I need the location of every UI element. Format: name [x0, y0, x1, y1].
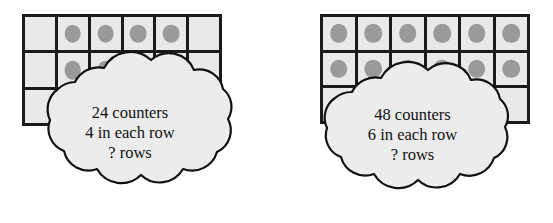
grid-cell	[323, 53, 355, 86]
grid-cell	[156, 53, 186, 86]
grid-cell	[323, 17, 355, 50]
counter-chip	[130, 24, 147, 43]
counter-chip	[64, 61, 81, 80]
grid-cell	[427, 17, 459, 50]
cloud-text-left: 24 counters 4 in each row ? rows	[30, 103, 230, 163]
counter-chip	[97, 61, 114, 80]
counter-chip	[163, 24, 180, 43]
grid-cell	[392, 17, 424, 50]
grid-cell	[124, 53, 154, 86]
counter-chip	[330, 24, 348, 42]
grid-cell	[189, 53, 219, 86]
counter-chip	[64, 24, 81, 43]
cloud-text-right: 48 counters 6 in each row ? rows	[310, 105, 515, 165]
counter-chip	[468, 24, 486, 42]
grid-cell	[358, 53, 390, 86]
counter-chip	[433, 60, 451, 78]
counter-chip	[502, 60, 520, 78]
cloud-line-per-row: 6 in each row	[310, 125, 515, 145]
cloud-line-total: 48 counters	[310, 105, 515, 125]
grid-cell	[358, 17, 390, 50]
counter-chip	[502, 24, 520, 42]
grid-cell	[461, 17, 493, 50]
grid-cell	[156, 17, 186, 50]
grid-cell	[25, 53, 55, 86]
cloud-line-rows: ? rows	[30, 143, 230, 163]
problem-panel-right: 48 counters 6 in each row ? rows	[280, 0, 553, 223]
counter-chip	[130, 61, 147, 80]
cloud-line-per-row: 4 in each row	[30, 123, 230, 143]
counter-chip	[364, 60, 382, 78]
grid-cell	[392, 53, 424, 86]
grid-cell	[189, 17, 219, 50]
grid-cell	[91, 17, 121, 50]
grid-cell	[58, 53, 88, 86]
grid-cell	[461, 53, 493, 86]
cloud-line-rows: ? rows	[310, 145, 515, 165]
grid-cell	[496, 17, 528, 50]
counter-chip	[330, 60, 348, 78]
counter-chip	[399, 24, 417, 42]
counter-chip	[468, 60, 486, 78]
grid-cell	[58, 17, 88, 50]
grid-cell	[427, 53, 459, 86]
cloud-line-total: 24 counters	[30, 103, 230, 123]
counter-chip	[364, 24, 382, 42]
problem-panel-left: 24 counters 4 in each row ? rows	[0, 0, 280, 223]
counter-chip	[97, 24, 114, 43]
grid-cell	[124, 17, 154, 50]
grid-cell	[25, 17, 55, 50]
counter-chip	[163, 61, 180, 80]
counter-chip	[433, 24, 451, 42]
counter-chip	[399, 60, 417, 78]
grid-cell	[496, 53, 528, 86]
grid-cell	[91, 53, 121, 86]
